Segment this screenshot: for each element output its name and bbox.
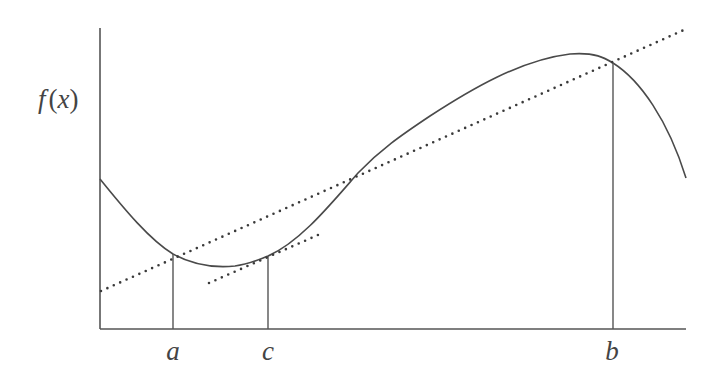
y-axis-label: f(x) — [38, 84, 79, 114]
close-paren: ) — [70, 84, 79, 114]
label-c: c — [262, 336, 274, 366]
tangent-line — [209, 235, 318, 283]
label-a: a — [166, 336, 180, 366]
label-b: b — [605, 336, 619, 366]
open-paren: ( — [49, 84, 58, 114]
mean-value-theorem-diagram: f(x) a c b — [0, 0, 726, 386]
secant-line — [101, 29, 686, 291]
variable-name: x — [57, 84, 70, 114]
vertical-lines — [173, 63, 613, 329]
function-name: f — [38, 84, 49, 114]
function-curve — [100, 54, 686, 267]
axes — [100, 28, 686, 329]
